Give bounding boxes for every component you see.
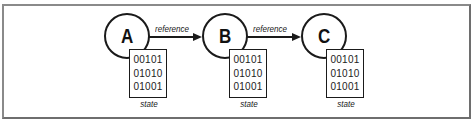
state-line: 00101 (331, 55, 360, 65)
node-b-label: B (219, 26, 231, 46)
node-c-label: C (318, 26, 330, 46)
state-line: 01010 (234, 69, 263, 79)
node-c-state-caption: state (329, 99, 363, 109)
state-line: 01010 (134, 69, 163, 79)
state-line: 00101 (234, 55, 263, 65)
state-line: 01010 (331, 69, 360, 79)
node-c-state-box: 00101 01010 01001 (326, 49, 364, 98)
edge-b-to-c-label: reference (253, 24, 287, 34)
node-a-state-caption: state (132, 99, 166, 109)
edge-b-to-c-arrowhead-icon (292, 33, 301, 41)
state-line: 01001 (234, 82, 263, 92)
edge-a-to-b-arrowhead-icon (193, 33, 202, 41)
node-b-state-box: 00101 01010 01001 (229, 49, 267, 98)
edge-b-to-c-line (247, 36, 293, 38)
state-line: 01001 (134, 82, 163, 92)
edge-a-to-b-line (148, 36, 194, 38)
node-a-state-box: 00101 01010 01001 (129, 49, 167, 98)
state-line: 00101 (134, 55, 163, 65)
state-line: 01001 (331, 82, 360, 92)
edge-a-to-b-label: reference (155, 24, 189, 34)
node-b-state-caption: state (232, 99, 266, 109)
node-a-label: A (121, 26, 133, 46)
